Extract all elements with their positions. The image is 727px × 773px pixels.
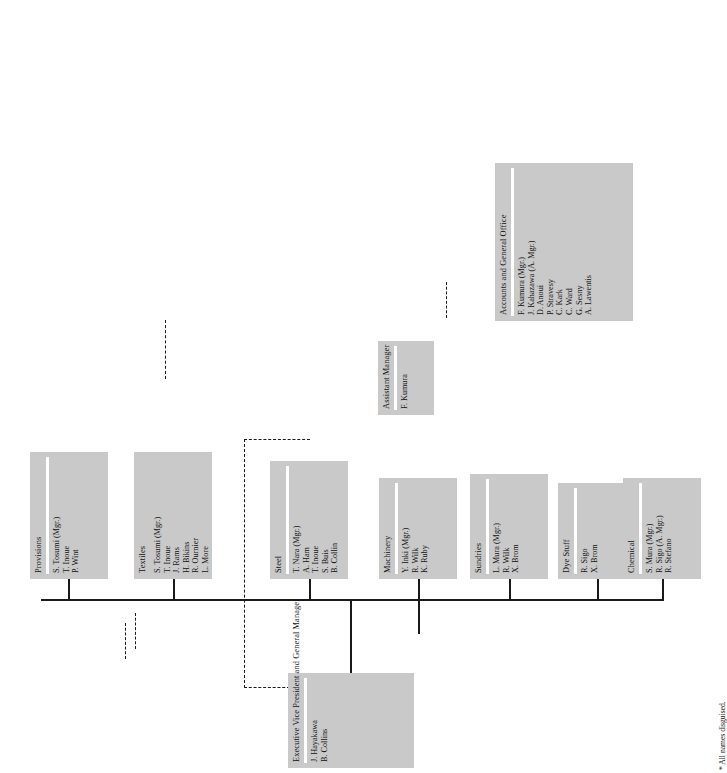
list-item: L. Mura (Mgr.) (492, 480, 502, 573)
list-item: A. Ham (302, 467, 312, 573)
list-item: Y. Inki (Mgr.) (401, 484, 411, 573)
list-item: B. Collins (320, 679, 330, 762)
department-members: R. Sigo X. Brom (580, 483, 603, 579)
list-item: R. Stefano (664, 484, 674, 573)
list-item: R. Sigo (580, 489, 590, 573)
divider (46, 457, 49, 574)
box-executive[interactable]: Executive Vice President and General Man… (288, 673, 414, 768)
accounts-title: Accounts and General Office (495, 163, 509, 321)
accounts-members: F. Kumura (Mgr.) J. Kahazawa (A. Mgr.) D… (517, 163, 598, 321)
footnote: * All names disguised. (718, 701, 727, 770)
list-item: J. Kahazawa (A. Mgr.) (527, 169, 537, 315)
department-title: Chemical (623, 478, 637, 579)
list-item: R. Wilk (411, 484, 421, 573)
dash-inoue-link (135, 613, 136, 649)
divider (394, 346, 397, 410)
list-item: H. Bikins (182, 458, 192, 573)
department-title: Textiles (134, 452, 148, 579)
divider (486, 479, 489, 574)
list-item: T. Inoue (62, 458, 72, 573)
list-item: T. Inoue (163, 458, 173, 573)
list-item: L. More (201, 458, 211, 573)
dash-collins-vert-steel (244, 439, 310, 440)
list-item: A. Lawentis (584, 169, 594, 315)
department-title: Sundries (470, 474, 484, 579)
department-title: Machinery (379, 478, 393, 579)
box-department-machinery[interactable]: Machinery Y. Inki (Mgr.) R. Wilk K. Ruby (379, 478, 457, 579)
list-item: S. Tosumi (Mgr.) (52, 458, 62, 573)
branch-textiles (173, 579, 175, 601)
dash-tosumi-link (125, 623, 126, 659)
branch-provisions (68, 579, 70, 601)
list-item: D. Anoui (536, 169, 546, 315)
branch-machinery (418, 579, 420, 601)
department-members: S. Mura (Mgr.) R. Sigo (A. Mgr.) R. Stef… (645, 478, 678, 579)
divider (639, 483, 642, 574)
list-item: F. Kumura (400, 347, 410, 409)
list-item: C. Ward (565, 169, 575, 315)
dash-collins-vert-exec (244, 687, 290, 688)
list-item: B. Collin (330, 467, 340, 573)
department-members: T. Nara (Mgr.) A. Ham T. Inoue S. Buis B… (292, 461, 344, 579)
assistant-members: F. Kumura (400, 341, 414, 415)
divider (304, 678, 307, 763)
dash-kumura-link (165, 320, 166, 379)
branch-sundries (509, 579, 511, 601)
dash-wilk-link (446, 282, 447, 318)
divider (574, 488, 577, 574)
list-item: P. Stravesy (546, 169, 556, 315)
branch-chemical (662, 579, 664, 601)
divider (286, 466, 289, 574)
box-department-textiles[interactable]: Textiles S. Tosumi (Mgr.) T. Inoue J. Ra… (134, 452, 212, 579)
box-department-chemical[interactable]: Chemical S. Mura (Mgr.) R. Sigo (A. Mgr.… (623, 478, 701, 579)
list-item: J. Rams (172, 458, 182, 573)
list-item: S. Mura (Mgr.) (645, 484, 655, 573)
dash-collins-horiz (244, 439, 245, 688)
list-item: T. Nara (Mgr.) (292, 467, 302, 573)
executive-title: Executive Vice President and General Man… (288, 673, 302, 768)
list-item: S. Buis (321, 467, 331, 573)
list-item: F. Kumura (Mgr.) (517, 169, 527, 315)
assistant-title: Assistant Manager (378, 341, 392, 415)
list-item: T. Inoue (311, 467, 321, 573)
divider (511, 168, 514, 316)
department-title: Provisions (30, 452, 44, 579)
list-item: J. Hayakawa (310, 679, 320, 762)
box-accounts-general-office[interactable]: Accounts and General Office F. Kumura (M… (495, 163, 633, 321)
list-item: S. Tosumi (Mgr.) (153, 458, 163, 573)
box-assistant-manager[interactable]: Assistant Manager F. Kumura (378, 341, 434, 415)
list-item: K. Ruby (420, 484, 430, 573)
list-item: R. Ournier (191, 458, 201, 573)
list-item: R. Sigo (A. Mgr.) (655, 484, 665, 573)
box-department-steel[interactable]: Steel T. Nara (Mgr.) A. Ham T. Inoue S. … (270, 461, 348, 579)
department-members: Y. Inki (Mgr.) R. Wilk K. Ruby (401, 478, 434, 579)
list-item: R. Wilk (502, 480, 512, 573)
box-department-sundries[interactable]: Sundries L. Mura (Mgr.) R. Wilk X. Brom (470, 474, 548, 579)
department-title: Dye Stuff (558, 483, 572, 579)
box-department-provisions[interactable]: Provisions S. Tosumi (Mgr.) T. Inoue P. … (30, 452, 108, 579)
divider (395, 483, 398, 574)
department-members: S. Tosumi (Mgr.) T. Inoue J. Rams H. Bik… (153, 452, 215, 579)
list-item: C. Kark (555, 169, 565, 315)
list-item: G. Sesny (575, 169, 585, 315)
department-members: S. Tosumi (Mgr.) T. Inoue P. Wint (52, 452, 85, 579)
list-item: X. Brom (590, 489, 600, 573)
department-spine (41, 599, 663, 601)
branch-dyestuff (597, 579, 599, 601)
list-item: P. Wint (71, 458, 81, 573)
department-title: Steel (270, 461, 284, 579)
exec-to-spine-line (350, 599, 352, 673)
branch-steel (309, 579, 311, 601)
department-members: L. Mura (Mgr.) R. Wilk X. Brom (492, 474, 525, 579)
executive-members: J. Hayakawa B. Collins (310, 673, 333, 768)
list-item: X. Brom (511, 480, 521, 573)
assistant-to-spine-line (418, 599, 420, 634)
